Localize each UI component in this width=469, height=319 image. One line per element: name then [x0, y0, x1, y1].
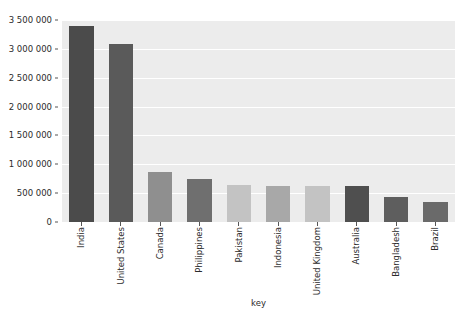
x-label-slot: Bangladesh	[376, 227, 415, 307]
bar[interactable]	[187, 179, 211, 222]
y-tick-label: 2 500 000	[9, 73, 52, 82]
y-tick-label: 1 500 000	[9, 131, 52, 140]
bar[interactable]	[148, 172, 172, 222]
bar-slot	[62, 20, 101, 222]
bar[interactable]	[423, 202, 447, 222]
x-tick-label: Indonesia	[274, 227, 283, 268]
x-tick-label: Bangladesh	[392, 227, 401, 277]
x-label-slot: Brazil	[416, 227, 455, 307]
bar-chart-figure: 0500 0001 000 0001 500 0002 000 0002 500…	[0, 0, 469, 319]
y-tick-label: 2 000 000	[9, 102, 52, 111]
x-tick-label: Pakistan	[235, 227, 244, 263]
x-tick-slot	[416, 222, 455, 226]
x-tick-label: Canada	[156, 227, 165, 259]
bar[interactable]	[69, 26, 93, 222]
x-tick-mark	[317, 222, 318, 226]
x-label-slot: United Kingdom	[298, 227, 337, 307]
x-tick-mark	[435, 222, 436, 226]
x-label-slot: Indonesia	[258, 227, 297, 307]
bar-slot	[258, 20, 297, 222]
x-tick-slot	[337, 222, 376, 226]
x-tick-slot	[141, 222, 180, 226]
bar-slot	[376, 20, 415, 222]
y-tick-mark	[55, 77, 58, 78]
bar-slot	[219, 20, 258, 222]
bar[interactable]	[227, 185, 251, 222]
bar[interactable]	[266, 186, 290, 222]
y-tick-mark	[55, 164, 58, 165]
y-tick-mark	[55, 222, 58, 223]
x-tick-slot	[376, 222, 415, 226]
bar-slot	[298, 20, 337, 222]
y-tick-label: 3 000 000	[9, 45, 52, 54]
y-tick-label: 500 000	[17, 189, 52, 198]
x-label-slot: Canada	[141, 227, 180, 307]
x-tick-label: Brazil	[431, 227, 440, 251]
x-tick-mark	[278, 222, 279, 226]
y-tick-label: 3 500 000	[9, 16, 52, 25]
x-tick-slot	[62, 222, 101, 226]
x-label-slot: United States	[101, 227, 140, 307]
x-label-slot: Pakistan	[219, 227, 258, 307]
x-tick-slot	[298, 222, 337, 226]
x-tick-mark	[396, 222, 397, 226]
x-label-slot: India	[62, 227, 101, 307]
x-tick-slot	[180, 222, 219, 226]
bar[interactable]	[305, 186, 329, 222]
y-tick-mark	[55, 193, 58, 194]
y-axis: 0500 0001 000 0001 500 0002 000 0002 500…	[0, 0, 62, 319]
y-tick-label: 0	[47, 218, 52, 227]
x-tick-mark	[81, 222, 82, 226]
plot-area	[62, 20, 455, 222]
x-tick-labels: IndiaUnited StatesCanadaPhilippinesPakis…	[62, 227, 455, 307]
x-tick-label: United States	[117, 227, 126, 285]
x-axis-title: key	[62, 298, 455, 308]
x-tick-mark	[160, 222, 161, 226]
bar-slot	[180, 20, 219, 222]
bar[interactable]	[384, 197, 408, 222]
bar-slot	[141, 20, 180, 222]
y-tick-mark	[55, 135, 58, 136]
bar-slot	[337, 20, 376, 222]
y-tick-label: 1 000 000	[9, 160, 52, 169]
bars-container	[62, 20, 455, 222]
x-tick-slot	[101, 222, 140, 226]
x-tick-mark	[199, 222, 200, 226]
x-tick-label: India	[77, 227, 86, 248]
bar[interactable]	[345, 186, 369, 222]
x-tick-mark	[120, 222, 121, 226]
y-tick-mark	[55, 20, 58, 21]
x-tick-label: Australia	[352, 227, 361, 265]
y-tick-mark	[55, 48, 58, 49]
x-tick-slot	[258, 222, 297, 226]
x-label-slot: Philippines	[180, 227, 219, 307]
bar-slot	[101, 20, 140, 222]
x-tick-label: United Kingdom	[313, 227, 322, 295]
bar-slot	[416, 20, 455, 222]
x-tick-slot	[219, 222, 258, 226]
x-tick-mark	[356, 222, 357, 226]
x-tick-mark	[238, 222, 239, 226]
bar[interactable]	[109, 44, 133, 222]
x-label-slot: Australia	[337, 227, 376, 307]
y-tick-mark	[55, 106, 58, 107]
x-tick-label: Philippines	[195, 227, 204, 273]
x-tick-marks	[62, 222, 455, 226]
